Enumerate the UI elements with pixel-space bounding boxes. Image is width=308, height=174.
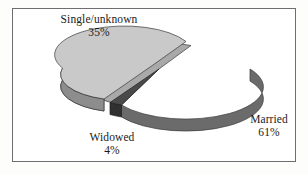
label-widowed-name: Widowed xyxy=(90,131,135,143)
label-married-percent: 61% xyxy=(238,126,300,139)
label-single-unknown-name: Single/unknown xyxy=(61,13,138,25)
figure: Single/unknown 35% Married 61% Widowed 4… xyxy=(0,0,308,174)
label-single-unknown: Single/unknown 35% xyxy=(47,13,151,38)
label-married: Married 61% xyxy=(238,113,300,138)
label-married-name: Married xyxy=(250,113,288,125)
label-single-unknown-percent: 35% xyxy=(47,26,151,39)
label-widowed: Widowed 4% xyxy=(70,131,154,156)
label-widowed-percent: 4% xyxy=(70,144,154,157)
